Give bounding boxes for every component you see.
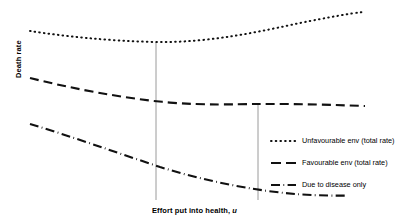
x-axis-label-text: Effort put into health,	[152, 206, 232, 215]
chart-figure: Death rate Effort put into health, u Unf…	[0, 0, 418, 224]
legend-sample-dotted-icon	[270, 136, 297, 146]
legend-label-due-to-disease: Due to disease only	[302, 180, 366, 190]
legend-label-unfavourable-env: Unfavourable env (total rate)	[302, 136, 394, 146]
series-favourable-env-curve	[30, 78, 365, 106]
legend-item-favourable-env: Favourable env (total rate)	[270, 155, 418, 170]
legend-sample-dashed-icon	[270, 158, 297, 168]
x-axis-label: Effort put into health, u	[152, 206, 237, 215]
legend-item-unfavourable-env: Unfavourable env (total rate)	[270, 133, 418, 148]
legend-sample-dash-dot-icon	[270, 180, 297, 190]
legend-item-due-to-disease: Due to disease only	[270, 177, 418, 192]
series-unfavourable-env-curve	[30, 12, 363, 42]
legend-label-favourable-env: Favourable env (total rate)	[302, 158, 388, 168]
y-axis-label: Death rate	[14, 40, 23, 78]
x-axis-label-variable: u	[232, 206, 237, 215]
chart-legend: Unfavourable env (total rate) Favourable…	[270, 133, 418, 199]
